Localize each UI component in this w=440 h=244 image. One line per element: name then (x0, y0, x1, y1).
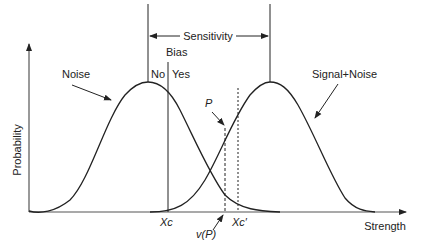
x-axis-label: Strength (364, 220, 406, 232)
yes-label: Yes (172, 68, 190, 80)
signal-noise-arrow (315, 84, 338, 118)
noise-label: Noise (62, 68, 90, 80)
no-label: No (151, 68, 165, 80)
noise-arrow (72, 85, 111, 100)
p-arrow (212, 112, 224, 125)
bias-label: Bias (166, 46, 188, 58)
sensitivity-label: Sensitivity (183, 30, 233, 42)
sdt-diagram: Sensitivity Bias No Yes P Xc Xc′ v(P) No… (0, 0, 440, 244)
y-axis-label: Probability (11, 124, 23, 176)
xc-prime-label: Xc′ (231, 216, 248, 228)
vp-arrow (213, 215, 223, 230)
noise-curve (29, 82, 280, 212)
p-label: P (205, 97, 213, 109)
signal-noise-label: Signal+Noise (312, 68, 377, 80)
signal-noise-curve (150, 82, 375, 212)
xc-label: Xc (159, 216, 173, 228)
